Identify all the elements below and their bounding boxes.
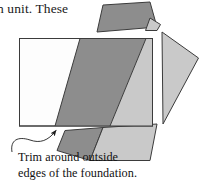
- trimmed-piece-right-shape: [162, 32, 199, 124]
- caption-line-1: Trim around outside: [18, 150, 137, 166]
- trim-leader-line: [12, 131, 56, 153]
- figure-caption: Trim around outside edges of the foundat…: [18, 150, 137, 181]
- caption-line-2: edges of the foundation.: [18, 166, 137, 182]
- figure-container: n unit. These Trim around outside edges …: [0, 0, 203, 184]
